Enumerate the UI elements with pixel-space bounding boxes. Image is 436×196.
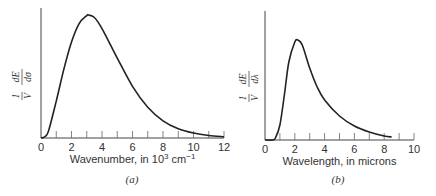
energy-density-curve <box>265 39 392 140</box>
svg-text:1: 1 <box>237 96 248 101</box>
svg-text:dσ: dσ <box>22 71 33 82</box>
x-tick-label: 6 <box>351 143 357 155</box>
y-axis-title: 1VdEdσ <box>10 69 33 100</box>
svg-text:1: 1 <box>10 94 21 99</box>
x-tick-label: 0 <box>262 143 268 155</box>
x-tick-label: 0 <box>38 141 44 153</box>
x-tick-label: 8 <box>381 143 387 155</box>
x-tick-label: 10 <box>408 143 420 155</box>
svg-text:V: V <box>249 93 260 101</box>
x-tick-label: 2 <box>292 143 298 155</box>
chart-panel-b: 0246810Wavelength, in microns1VdEdλ(b) <box>237 11 420 186</box>
x-axis-title: Wavelength, in microns <box>283 155 397 167</box>
x-tick-label: 4 <box>99 141 105 153</box>
x-axis-title: Wavenumber, in 103 cm−1 <box>70 152 196 165</box>
energy-density-curve <box>41 15 224 138</box>
x-tick-label: 12 <box>218 141 230 153</box>
panel-label: (a) <box>126 173 139 186</box>
x-tick-label: 2 <box>68 141 74 153</box>
svg-text:dλ: dλ <box>249 74 260 84</box>
panel-label: (b) <box>332 173 345 186</box>
svg-text:dE: dE <box>10 71 21 82</box>
y-axis-title: 1VdEdλ <box>237 71 260 102</box>
x-tick-label: 6 <box>129 141 135 153</box>
svg-text:dE: dE <box>237 73 248 84</box>
x-tick-label: 4 <box>322 143 328 155</box>
chart-panel-a: 024681012Wavenumber, in 103 cm−11VdEdσ(a… <box>10 8 230 186</box>
svg-text:V: V <box>22 91 33 99</box>
figure: 024681012Wavenumber, in 103 cm−11VdEdσ(a… <box>0 0 436 196</box>
